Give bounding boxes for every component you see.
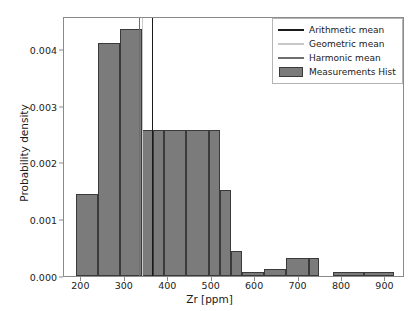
legend-patch-swatch [278, 66, 304, 78]
x-tick-label: 900 [375, 280, 393, 291]
histogram-figure: Probability density 0.0000.0010.0020.003… [0, 0, 419, 311]
legend-label: Arithmetic mean [309, 24, 384, 36]
y-axis-ticks: 0.0000.0010.0020.0030.004 [0, 0, 57, 311]
y-tick-label: 0.000 [30, 272, 57, 283]
x-tick-label: 700 [288, 280, 306, 291]
x-tick-label: 400 [158, 280, 176, 291]
x-tick-label: 300 [115, 280, 133, 291]
legend-line-swatch [278, 24, 304, 36]
legend-item: Measurements Hist [278, 65, 397, 79]
histogram-bar [76, 194, 98, 276]
x-tick-label: 500 [202, 280, 220, 291]
legend: Arithmetic meanGeometric meanHarmonic me… [272, 18, 403, 84]
histogram-bar [364, 272, 394, 276]
y-tick-mark [59, 277, 63, 278]
mean-line-harmonic-mean [139, 18, 140, 276]
x-tick-mark [211, 277, 212, 281]
x-tick-label: 600 [245, 280, 263, 291]
legend-item: Arithmetic mean [278, 23, 397, 37]
histogram-bar [231, 251, 242, 276]
x-tick-mark [341, 277, 342, 281]
histogram-bar [309, 258, 320, 276]
mean-line-geometric-mean [142, 18, 143, 276]
legend-swatch [279, 67, 303, 77]
legend-label: Harmonic mean [309, 52, 381, 64]
y-tick-label: 0.003 [30, 101, 57, 112]
histogram-bar [209, 130, 220, 276]
x-tick-mark [384, 277, 385, 281]
legend-line-swatch [278, 38, 304, 50]
legend-item: Harmonic mean [278, 51, 397, 65]
mean-line-arithmetic-mean [152, 18, 153, 276]
x-tick-mark [167, 277, 168, 281]
histogram-bar [242, 272, 264, 276]
y-tick-mark [59, 163, 63, 164]
legend-swatch [278, 29, 304, 31]
legend-label: Measurements Hist [309, 66, 396, 78]
y-tick-label: 0.004 [30, 44, 57, 55]
legend-swatch [278, 43, 304, 45]
y-tick-label: 0.002 [30, 158, 57, 169]
histogram-bar [98, 43, 120, 276]
histogram-bar [164, 130, 186, 276]
x-tick-mark [254, 277, 255, 281]
histogram-bar [186, 130, 208, 276]
histogram-bar [220, 190, 231, 276]
legend-line-swatch [278, 52, 304, 64]
x-tick-label: 800 [332, 280, 350, 291]
x-tick-mark [124, 277, 125, 281]
x-tick-label: 200 [71, 280, 89, 291]
x-tick-mark [298, 277, 299, 281]
y-tick-label: 0.001 [30, 215, 57, 226]
legend-label: Geometric mean [309, 38, 384, 50]
histogram-bar [264, 269, 286, 276]
legend-swatch [278, 57, 304, 59]
histogram-bar [153, 130, 164, 276]
y-tick-mark [59, 106, 63, 107]
x-axis-label: Zr [ppm] [0, 293, 419, 305]
histogram-bar [286, 258, 308, 276]
y-tick-mark [59, 49, 63, 50]
y-tick-mark [59, 220, 63, 221]
histogram-bar [333, 272, 363, 276]
legend-item: Geometric mean [278, 37, 397, 51]
x-tick-mark [80, 277, 81, 281]
